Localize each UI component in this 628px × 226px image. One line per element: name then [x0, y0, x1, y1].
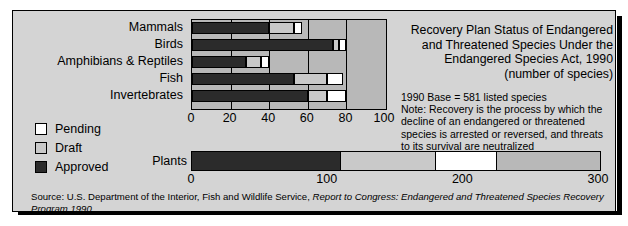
bar-fish: [192, 73, 386, 85]
segment-draft: [246, 56, 261, 68]
segment-draft: [308, 90, 327, 102]
note-line-4: species is arrested or reversed, and thr…: [401, 128, 617, 140]
category-label-invertebrates: Invertebrates: [19, 87, 187, 104]
chart-note: 1990 Base = 581 listed species Note: Rec…: [401, 91, 617, 152]
segment-pending: [339, 39, 347, 51]
segment-pending: [294, 22, 302, 34]
plants-segment-approved: [192, 152, 341, 170]
legend-label-pending: Pending: [55, 122, 101, 136]
segment-approved: [192, 56, 246, 68]
plants-segment-draft: [341, 152, 436, 170]
legend-swatch-approved-icon: [35, 161, 47, 173]
legend-label-draft: Draft: [55, 141, 82, 155]
bar-mammals: [192, 22, 386, 34]
chart-figure: Mammals Birds Amphibians & Reptiles Fish…: [0, 0, 628, 226]
segment-pending: [327, 90, 346, 102]
plot-area-plants: [191, 151, 601, 171]
source-note: Source: U.S. Department of the Interior,…: [31, 191, 611, 214]
chart-plate: Mammals Birds Amphibians & Reptiles Fish…: [12, 10, 616, 212]
segment-approved: [192, 73, 294, 85]
category-label-amphibians: Amphibians & Reptiles: [19, 53, 187, 70]
x-tick-0: 0: [188, 111, 195, 125]
segment-approved: [192, 22, 269, 34]
bar-birds: [192, 39, 386, 51]
x-axis-top: 0 20 40 60 80 100: [191, 111, 387, 131]
x-tick-20: 20: [223, 111, 237, 125]
note-line-base: 1990 Base = 581 listed species: [401, 91, 617, 103]
bar-invertebrates: [192, 90, 386, 102]
category-label-birds: Birds: [19, 36, 187, 53]
note-line-3: decline of an endangered or threatened: [401, 115, 617, 127]
source-text: Source: U.S. Department of the Interior,…: [31, 191, 313, 202]
chart-title: Recovery Plan Status of Endangered and T…: [401, 23, 613, 81]
segment-pending: [261, 56, 269, 68]
x-tick-100: 100: [374, 111, 395, 125]
legend-label-approved: Approved: [55, 160, 109, 174]
title-line-3: Endangered Species Act, 1990: [401, 52, 613, 67]
title-line-1: Recovery Plan Status of Endangered: [401, 23, 613, 38]
category-label-mammals: Mammals: [19, 19, 187, 36]
category-label-list: Mammals Birds Amphibians & Reptiles Fish…: [19, 19, 187, 104]
note-line-2: Note: Recovery is the process by which t…: [401, 103, 617, 115]
plants-tick-300: 300: [588, 172, 609, 186]
plants-tick-200: 200: [452, 172, 473, 186]
legend-item-pending: Pending: [35, 119, 185, 138]
x-tick-40: 40: [261, 111, 275, 125]
title-line-2: and Threatened Species Under the: [401, 38, 613, 53]
title-subtitle: (number of species): [401, 67, 613, 82]
x-tick-60: 60: [300, 111, 314, 125]
x-axis-plants: 0 100 200 300: [191, 172, 601, 190]
segment-draft: [269, 22, 294, 34]
category-label-fish: Fish: [19, 70, 187, 87]
segment-approved: [192, 39, 333, 51]
plants-segment-pending: [436, 152, 497, 170]
legend-swatch-pending-icon: [35, 123, 47, 135]
segment-pending: [327, 73, 342, 85]
segment-approved: [192, 90, 308, 102]
bar-amphibians-reptiles: [192, 56, 386, 68]
x-tick-80: 80: [338, 111, 352, 125]
plants-tick-100: 100: [316, 172, 337, 186]
plate-shadow-right: [617, 16, 622, 214]
plants-tick-0: 0: [188, 172, 195, 186]
plot-area-top: [191, 19, 387, 110]
legend-swatch-draft-icon: [35, 142, 47, 154]
segment-draft: [294, 73, 327, 85]
category-label-plants: Plants: [113, 154, 187, 168]
